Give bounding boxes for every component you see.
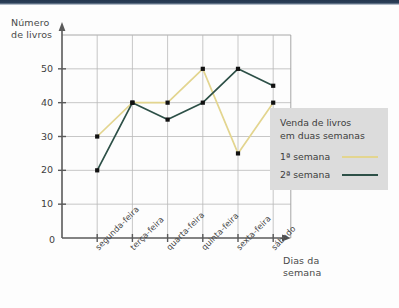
legend-label-semana-1: 1ª semana bbox=[280, 151, 342, 162]
legend-title: Venda de livros em duas semanas bbox=[280, 117, 378, 142]
y-axis-tick-label: 50 bbox=[31, 63, 53, 74]
legend-swatch-semana-2 bbox=[342, 174, 378, 176]
legend-item-semana-2: 2ª semana bbox=[280, 169, 378, 180]
y-axis-title: Número de livros bbox=[11, 17, 52, 40]
y-axis-tick-label: 20 bbox=[31, 164, 53, 175]
axis-lines bbox=[59, 22, 291, 241]
legend-item-semana-1: 1ª semana bbox=[280, 151, 378, 162]
y-axis-origin-label: 0 bbox=[49, 234, 55, 245]
line-chart: Número de livros Dias da semana 0 102030… bbox=[0, 0, 399, 308]
data-series-layer bbox=[95, 67, 275, 173]
x-axis-title: Dias da semana bbox=[283, 255, 321, 278]
chart-legend: Venda de livros em duas semanas 1ª seman… bbox=[270, 108, 388, 190]
y-axis-tick-label: 10 bbox=[31, 198, 53, 209]
legend-swatch-semana-1 bbox=[342, 156, 378, 158]
y-axis-tick-label: 30 bbox=[31, 131, 53, 142]
legend-label-semana-2: 2ª semana bbox=[280, 169, 342, 180]
y-axis-tick-label: 40 bbox=[31, 97, 53, 108]
